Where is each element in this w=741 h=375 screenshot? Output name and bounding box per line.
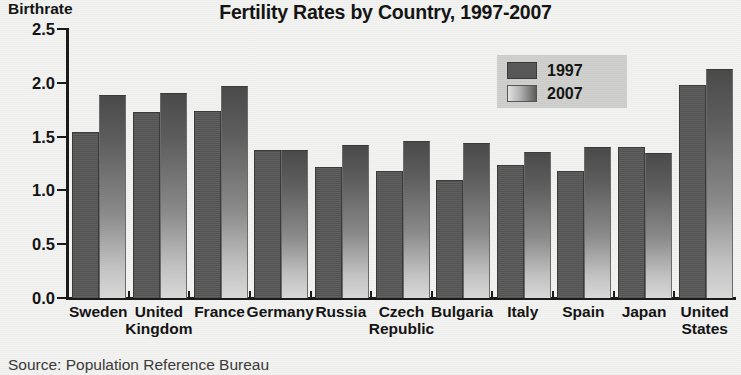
x-axis-label-line1: United bbox=[681, 303, 729, 320]
bar-2007-japan bbox=[645, 153, 672, 298]
bar-1997-russia bbox=[315, 167, 342, 298]
bar-2007-france bbox=[221, 86, 248, 298]
plot-area bbox=[68, 29, 735, 298]
x-axis-label-line1: Bulgaria bbox=[431, 303, 493, 320]
y-axis-tick-label: 1.0 bbox=[0, 181, 55, 200]
bar-1997-bulgaria bbox=[436, 180, 463, 298]
bar-1997-france bbox=[194, 111, 221, 298]
fertility-rates-bar-chart: Fertility Rates by Country, 1997-2007 Bi… bbox=[0, 0, 741, 375]
y-axis-tick-label: 2.0 bbox=[0, 73, 55, 92]
x-axis-label-line2: Republic bbox=[365, 320, 438, 337]
x-axis-label-line1: Italy bbox=[507, 303, 538, 320]
x-axis-label-line1: Japan bbox=[622, 303, 667, 320]
x-axis-label-line1: Czech bbox=[379, 303, 425, 320]
bar-2007-sweden bbox=[99, 95, 126, 298]
chart-legend: 1997 2007 bbox=[497, 55, 627, 108]
x-axis-label-line1: Russia bbox=[315, 303, 366, 320]
bar-2007-spain bbox=[584, 147, 611, 298]
bar-1997-italy bbox=[497, 165, 524, 298]
x-axis-label-line1: Sweden bbox=[69, 303, 128, 320]
legend-label-2007: 2007 bbox=[547, 85, 583, 103]
legend-item-1997: 1997 bbox=[507, 60, 627, 81]
bar-1997-czech-republic bbox=[376, 171, 403, 298]
page-title: Fertility Rates by Country, 1997-2007 bbox=[0, 1, 741, 24]
bar-2007-united-states bbox=[706, 69, 733, 298]
y-axis-title: Birthrate bbox=[8, 0, 73, 18]
bar-2007-czech-republic bbox=[403, 141, 430, 298]
x-axis-label-line2: States bbox=[668, 320, 741, 337]
x-axis-label-united-states: UnitedStates bbox=[668, 303, 741, 337]
legend-swatch-2007-icon bbox=[507, 85, 537, 102]
legend-item-2007: 2007 bbox=[507, 83, 627, 104]
source-note: Source: Population Reference Bureau bbox=[8, 356, 269, 374]
bar-2007-russia bbox=[342, 145, 369, 298]
legend-label-1997: 1997 bbox=[547, 62, 583, 80]
y-axis-tick-label: 0.0 bbox=[0, 289, 55, 308]
bar-1997-united-kingdom bbox=[133, 112, 160, 298]
bar-2007-bulgaria bbox=[463, 143, 490, 298]
bar-2007-united-kingdom bbox=[160, 93, 187, 298]
bar-2007-italy bbox=[524, 152, 551, 298]
x-axis-label-line2: Kingdom bbox=[123, 320, 196, 337]
bar-2007-germany bbox=[281, 150, 308, 298]
y-axis-tick-label: 1.5 bbox=[0, 127, 55, 146]
x-axis-label-line1: United bbox=[135, 303, 183, 320]
bar-1997-united-states bbox=[679, 85, 706, 298]
bar-1997-germany bbox=[254, 150, 281, 298]
legend-swatch-1997-icon bbox=[507, 62, 537, 79]
bar-1997-spain bbox=[557, 171, 584, 298]
bar-1997-sweden bbox=[72, 132, 99, 298]
x-axis-label-line1: France bbox=[194, 303, 245, 320]
y-axis-tick-label: 2.5 bbox=[0, 20, 55, 39]
x-axis-label-line1: Spain bbox=[562, 303, 604, 320]
y-axis-tick-label: 0.5 bbox=[0, 235, 55, 254]
bar-1997-japan bbox=[618, 147, 645, 298]
